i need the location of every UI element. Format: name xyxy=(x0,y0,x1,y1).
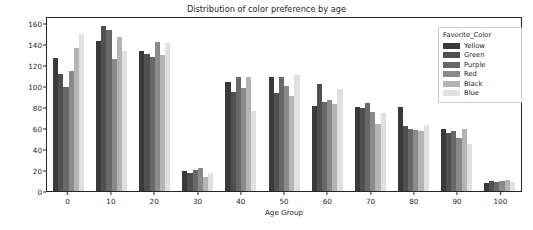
matplotlib-figure: Distribution of color preference by age … xyxy=(0,0,533,230)
bar-group-inner xyxy=(398,18,429,191)
legend: Favorite_Color YellowGreenPurpleRedBlack… xyxy=(438,27,522,103)
x-tick-mark xyxy=(110,192,111,195)
x-tick-mark xyxy=(457,192,458,195)
x-tick-mark xyxy=(284,192,285,195)
legend-swatch-icon xyxy=(443,43,460,49)
bar[interactable] xyxy=(337,89,342,191)
bar-group-inner xyxy=(269,18,300,191)
legend-label: Black xyxy=(464,80,482,88)
legend-swatch-icon xyxy=(443,90,460,96)
x-tick-label: 30 xyxy=(193,197,202,206)
legend-item[interactable]: Black xyxy=(443,79,517,89)
bar-group xyxy=(47,18,90,191)
x-tick: 80 xyxy=(409,192,418,206)
x-tick-mark xyxy=(327,192,328,195)
x-tick-mark xyxy=(197,192,198,195)
bar-group-inner xyxy=(96,18,127,191)
x-tick: 70 xyxy=(366,192,375,206)
x-tick-label: 40 xyxy=(236,197,245,206)
chart-title: Distribution of color preference by age xyxy=(0,4,533,14)
bar[interactable] xyxy=(294,75,299,191)
legend-label: Red xyxy=(464,70,477,78)
y-axis: count 020406080100120140160 xyxy=(0,17,46,192)
y-tick-label: 100 xyxy=(28,83,42,92)
x-tick-mark xyxy=(413,192,414,195)
y-tick-label: 40 xyxy=(33,146,42,155)
x-tick: 60 xyxy=(323,192,332,206)
x-tick: 40 xyxy=(236,192,245,206)
bar[interactable] xyxy=(467,144,472,191)
y-tick-label: 120 xyxy=(28,62,42,71)
x-tick-label: 0 xyxy=(65,197,70,206)
y-tick-label: 0 xyxy=(37,188,42,197)
y-tick-label: 160 xyxy=(28,20,42,29)
bar-group xyxy=(392,18,435,191)
x-tick-label: 70 xyxy=(366,197,375,206)
x-tick-label: 90 xyxy=(453,197,462,206)
x-tick-label: 80 xyxy=(409,197,418,206)
bar-group xyxy=(219,18,262,191)
bar-group xyxy=(133,18,176,191)
bar[interactable] xyxy=(79,34,84,191)
legend-swatch-icon xyxy=(443,81,460,87)
legend-item[interactable]: Yellow xyxy=(443,41,517,51)
bar-group-inner xyxy=(53,18,84,191)
x-tick: 10 xyxy=(106,192,115,206)
legend-item[interactable]: Green xyxy=(443,51,517,61)
x-tick: 50 xyxy=(279,192,288,206)
y-tick-label: 80 xyxy=(33,104,42,113)
x-tick-label: 20 xyxy=(150,197,159,206)
x-axis-label: Age Group xyxy=(46,208,522,217)
legend-swatch-icon xyxy=(443,52,460,58)
legend-swatch-icon xyxy=(443,71,460,77)
legend-swatch-icon xyxy=(443,62,460,68)
y-tick-label: 140 xyxy=(28,41,42,50)
y-tick-label: 20 xyxy=(33,167,42,176)
x-tick: 90 xyxy=(453,192,462,206)
x-tick-label: 50 xyxy=(279,197,288,206)
x-tick-mark xyxy=(154,192,155,195)
x-tick-label: 60 xyxy=(323,197,332,206)
legend-item[interactable]: Purple xyxy=(443,60,517,70)
x-tick: 0 xyxy=(65,192,70,206)
x-tick: 30 xyxy=(193,192,202,206)
bar[interactable] xyxy=(208,173,213,191)
bar-group xyxy=(306,18,349,191)
legend-item[interactable]: Blue xyxy=(443,89,517,99)
bar-group-inner xyxy=(139,18,170,191)
bar[interactable] xyxy=(165,43,170,191)
x-tick-label: 100 xyxy=(494,197,508,206)
bar[interactable] xyxy=(424,125,429,191)
bar-group xyxy=(90,18,133,191)
x-tick-label: 10 xyxy=(106,197,115,206)
bar[interactable] xyxy=(381,113,386,191)
legend-label: Purple xyxy=(464,61,485,69)
legend-rows: YellowGreenPurpleRedBlackBlue xyxy=(443,41,517,98)
x-tick-mark xyxy=(240,192,241,195)
legend-label: Blue xyxy=(464,89,479,97)
x-tick-mark xyxy=(67,192,68,195)
bar-group xyxy=(349,18,392,191)
bar-group-inner xyxy=(312,18,343,191)
x-tick: 20 xyxy=(150,192,159,206)
bar-group xyxy=(262,18,305,191)
x-tick: 100 xyxy=(494,192,508,206)
legend-title: Favorite_Color xyxy=(443,31,517,39)
bar-group-inner xyxy=(225,18,256,191)
legend-label: Green xyxy=(464,51,485,59)
bar[interactable] xyxy=(510,182,515,191)
legend-item[interactable]: Red xyxy=(443,70,517,80)
x-tick-mark xyxy=(500,192,501,195)
bar-group xyxy=(176,18,219,191)
x-tick-mark xyxy=(370,192,371,195)
legend-label: Yellow xyxy=(464,42,485,50)
bar[interactable] xyxy=(122,51,127,191)
bar-group-inner xyxy=(182,18,213,191)
bar-group-inner xyxy=(355,18,386,191)
y-tick-label: 60 xyxy=(33,125,42,134)
bar[interactable] xyxy=(251,111,256,191)
